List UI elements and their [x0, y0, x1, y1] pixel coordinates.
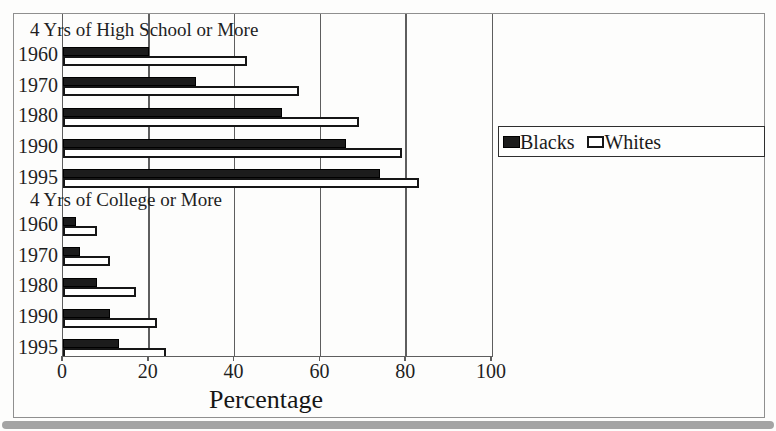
- blacks-swatch-icon: [503, 136, 520, 148]
- x-tick-label-80: 80: [383, 360, 427, 382]
- bar-blacks-1960-s0: [63, 47, 149, 56]
- legend-label-blacks: Blacks: [520, 131, 574, 153]
- legend-item-blacks: Blacks: [503, 131, 587, 153]
- section-header-0: 4 Yrs of High School or More: [30, 19, 258, 41]
- year-label-1990-s0: 1990: [10, 134, 58, 158]
- bar-whites-1960-s1: [63, 226, 97, 236]
- x-tick-label-20: 20: [126, 360, 170, 382]
- bar-blacks-1995-s1: [63, 339, 119, 348]
- plot-area: [62, 14, 493, 357]
- year-label-1980-s0: 1980: [10, 103, 58, 127]
- bar-blacks-1960-s1: [63, 217, 76, 226]
- bar-whites-1995-s1: [63, 348, 166, 357]
- bar-whites-1970-s0: [63, 86, 299, 96]
- year-label-1960-s1: 1960: [10, 212, 58, 236]
- bar-whites-1980-s1: [63, 287, 136, 297]
- whites-swatch-icon: [587, 136, 604, 148]
- bar-blacks-1970-s1: [63, 247, 80, 256]
- section-header-1: 4 Yrs of College or More: [30, 189, 222, 211]
- x-axis-title: Percentage: [156, 385, 376, 415]
- x-tick-label-0: 0: [40, 360, 84, 382]
- bar-whites-1995-s0: [63, 178, 419, 188]
- year-label-1995-s0: 1995: [10, 165, 58, 189]
- bar-whites-1970-s1: [63, 256, 110, 266]
- legend: Blacks Whites: [498, 126, 765, 157]
- x-tick-label-40: 40: [212, 360, 256, 382]
- x-tick-label-60: 60: [297, 360, 341, 382]
- year-label-1970-s1: 1970: [10, 243, 58, 267]
- legend-item-whites: Whites: [587, 131, 674, 153]
- bar-blacks-1980-s0: [63, 108, 282, 117]
- year-label-1995-s1: 1995: [10, 335, 58, 359]
- legend-label-whites: Whites: [604, 131, 661, 153]
- scanned-chart-page: 0204060801004 Yrs of High School or More…: [0, 0, 776, 431]
- year-label-1970-s0: 1970: [10, 73, 58, 97]
- bar-whites-1990-s1: [63, 318, 157, 328]
- bar-blacks-1990-s1: [63, 309, 110, 318]
- year-label-1990-s1: 1990: [10, 304, 58, 328]
- bar-whites-1990-s0: [63, 148, 402, 158]
- bar-blacks-1980-s1: [63, 278, 97, 287]
- year-label-1980-s1: 1980: [10, 273, 58, 297]
- x-tick-label-100: 100: [469, 360, 513, 382]
- year-label-1960-s0: 1960: [10, 42, 58, 66]
- bar-blacks-1990-s0: [63, 139, 346, 148]
- bar-whites-1960-s0: [63, 56, 247, 66]
- scan-shadow-artifact: [2, 421, 774, 429]
- bar-blacks-1995-s0: [63, 169, 380, 178]
- bar-blacks-1970-s0: [63, 77, 196, 86]
- bar-whites-1980-s0: [63, 117, 359, 127]
